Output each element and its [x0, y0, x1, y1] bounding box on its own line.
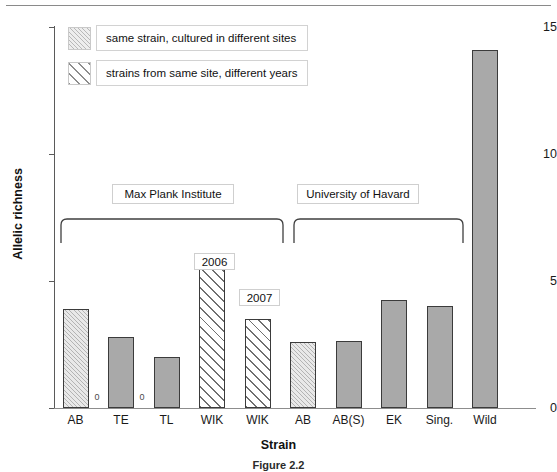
- x-axis-title: Strain: [0, 438, 557, 452]
- bar-wik-2007: [245, 319, 271, 408]
- bar-wik-2006: [199, 268, 225, 408]
- group-bracket-university-havard: [293, 218, 465, 244]
- bar-tl: [154, 357, 180, 408]
- legend-label-same-strain: same strain, cultured in different sites: [96, 25, 308, 51]
- y-tick-label-15: 15: [513, 21, 557, 34]
- figure-container: 0 5 10 15 Allelic richness Strain AB TE …: [0, 0, 557, 472]
- y-tick-label-0: 0: [513, 402, 557, 415]
- y-axis-title: Allelic richness: [11, 144, 25, 284]
- group-label-university-havard: University of Havard: [297, 184, 419, 204]
- y-tick-10: [49, 154, 54, 155]
- y-axis-line: [54, 26, 55, 409]
- group-bracket-max-plank: [60, 218, 285, 244]
- figure-caption: Figure 2.2: [0, 459, 557, 472]
- annotation-2006: 2006: [194, 253, 235, 270]
- group-label-max-plank: Max Plank Institute: [112, 184, 234, 204]
- y-tick-5: [49, 281, 54, 282]
- bar-ab-harvard: [290, 342, 316, 408]
- annotation-2007: 2007: [239, 289, 280, 306]
- bar-ab-s: [336, 341, 362, 408]
- x-axis-line: [54, 408, 536, 409]
- y-tick-label-10: 10: [513, 148, 557, 161]
- legend-label-same-site: strains from same site, different years: [96, 60, 308, 86]
- bar-chart-plot: 0 5 10 15 Allelic richness Strain AB TE …: [0, 0, 557, 472]
- y-tick-label-5: 5: [513, 275, 557, 288]
- zero-annotation-2: 0: [129, 392, 155, 402]
- zero-annotation-1: 0: [84, 392, 110, 402]
- y-tick-0: [49, 408, 54, 409]
- legend-swatch-same-strain: [68, 27, 91, 50]
- bar-sing: [427, 306, 453, 408]
- y-tick-15: [49, 27, 54, 28]
- x-label-9: Wild: [455, 414, 515, 427]
- bar-wild: [472, 50, 498, 408]
- legend-swatch-same-site: [68, 62, 91, 85]
- bar-ek: [381, 300, 407, 408]
